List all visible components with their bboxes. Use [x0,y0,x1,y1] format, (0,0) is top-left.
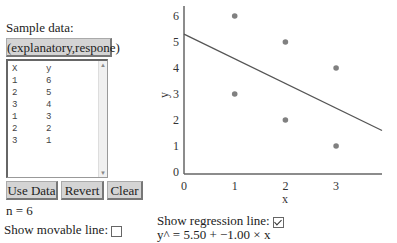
y-tick: 1 [173,139,179,153]
y-tick: 6 [173,9,179,23]
x-tick: 3 [333,179,339,193]
data-points [232,13,339,149]
x-tick: 1 [232,179,238,193]
data-point[interactable] [283,117,289,123]
data-point[interactable] [283,39,289,45]
regression-line [184,34,382,130]
y-tick: 0 [173,165,179,179]
x-tick-labels: 0123 [181,179,339,193]
y-tick: 3 [173,87,179,101]
y-axis-label: y [157,92,171,98]
data-point[interactable] [333,143,339,149]
x-tick: 0 [181,179,187,193]
x-axis-label: x [282,192,288,206]
data-point[interactable] [232,91,238,97]
y-tick: 5 [173,35,179,49]
x-tick: 2 [282,179,288,193]
y-tick: 2 [173,113,179,127]
data-point[interactable] [333,65,339,71]
data-point[interactable] [232,13,238,19]
y-tick: 4 [173,61,179,75]
y-tick-labels: 0123456 [173,9,179,179]
